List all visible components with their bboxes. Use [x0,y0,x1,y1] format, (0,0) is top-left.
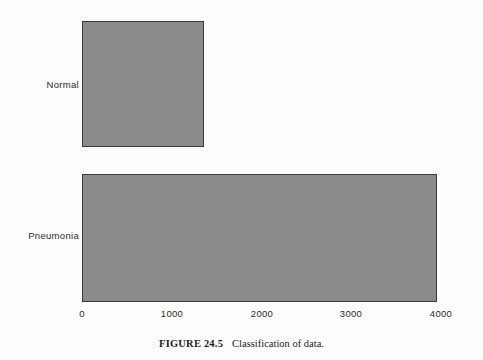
figure-caption: FIGURE 24.5Classification of data. [0,338,483,349]
x-tick-1000: 1000 [161,308,183,319]
x-axis: 0 1000 2000 3000 4000 [0,308,483,328]
figure-caption-text: Classification of data. [232,338,324,349]
y-axis-label-pneumonia: Pneumonia [0,230,79,241]
x-tick-4000: 4000 [430,308,452,319]
x-tick-3000: 3000 [340,308,362,319]
x-tick-2000: 2000 [251,308,273,319]
bar-normal [82,21,204,147]
y-axis-label-normal: Normal [0,79,79,90]
figure-classification-of-data: Normal Pneumonia 0 1000 2000 3000 4000 F… [0,0,483,360]
x-tick-0: 0 [79,308,85,319]
bar-pneumonia [82,174,437,302]
bar-chart-plot-area: Normal Pneumonia [0,0,483,310]
figure-caption-tag: FIGURE 24.5 [159,338,223,349]
